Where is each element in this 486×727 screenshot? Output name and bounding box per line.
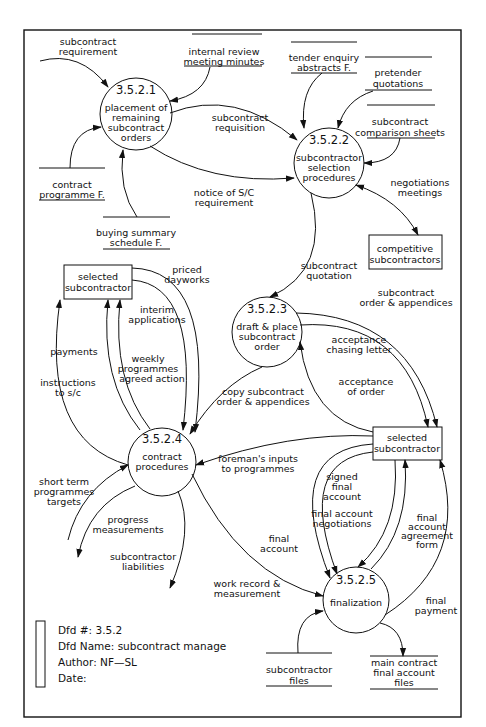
- store-subcontract-comparison-sheets[interactable]: subcontract comparison sheets: [355, 105, 445, 138]
- flow-label: dayworks: [164, 274, 209, 285]
- entity-label: subcontractor: [374, 443, 440, 454]
- flow-label: liabilities: [122, 561, 164, 572]
- dfd-number: Dfd #: 3.5.2: [58, 624, 122, 636]
- flow-label: of order: [347, 386, 385, 397]
- flow-label: account: [260, 543, 298, 554]
- store-pretender-quotations[interactable]: pretender quotations: [365, 57, 432, 90]
- flow-label: requisition: [215, 122, 265, 133]
- flow-label: meetings: [398, 187, 442, 198]
- store-label: subcontractor: [266, 664, 332, 675]
- flow-label: quotation: [306, 270, 352, 281]
- flow-arrows: [40, 58, 448, 656]
- store-label: pretender: [375, 67, 422, 78]
- store-subcontractor-files[interactable]: subcontractor files: [266, 653, 332, 686]
- store-label: subcontract: [372, 116, 429, 127]
- flow-label: measurement: [214, 588, 281, 599]
- dfd-canvas: 3.5.2.1 placement of remaining subcontra…: [0, 0, 486, 727]
- process-id: 3.5.2.5: [336, 573, 376, 587]
- process-3-5-2-1[interactable]: 3.5.2.1 placement of remaining subcontra…: [100, 78, 172, 150]
- process-label: finalization: [330, 597, 382, 608]
- process-3-5-2-2[interactable]: 3.5.2.2 subcontractor selection procedur…: [294, 128, 364, 198]
- process-3-5-2-4[interactable]: 3.5.2.4 contract procedures: [128, 428, 196, 496]
- process-id: 3.5.2.4: [142, 432, 182, 446]
- process-id: 3.5.2.1: [116, 83, 156, 97]
- flow-label: payment: [415, 605, 458, 616]
- store-contract-programme[interactable]: contract programme F.: [39, 168, 105, 200]
- flow-label: measurements: [92, 524, 163, 535]
- flow-label: chasing letter: [326, 344, 392, 355]
- flow-label: to s/c: [55, 387, 81, 398]
- store-label: schedule F.: [110, 237, 163, 248]
- process-label: order: [254, 341, 279, 352]
- flow-label: to programmes: [221, 463, 294, 474]
- process-id: 3.5.2.3: [247, 302, 287, 316]
- flow-label: targets: [47, 496, 81, 507]
- entity-label: subcontractor: [65, 282, 131, 293]
- store-tender-enquiry-abstracts[interactable]: tender enquiry abstracts F.: [289, 42, 360, 73]
- flow-label: requirement: [59, 46, 118, 57]
- dfd-date: Date:: [58, 672, 87, 684]
- entity-label: selected: [78, 271, 118, 282]
- flow-label: applications: [128, 314, 185, 325]
- store-label: quotations: [373, 78, 424, 89]
- store-label: programme F.: [39, 189, 105, 200]
- store-label: comparison sheets: [355, 127, 445, 138]
- flow-label: order & appendices: [216, 396, 309, 407]
- title-block: Dfd #: 3.5.2 Dfd Name: subcontract manag…: [36, 621, 226, 687]
- entity-competitive-subcontractors[interactable]: competitive subcontractors: [369, 235, 442, 269]
- store-label: files: [394, 677, 413, 688]
- process-3-5-2-3[interactable]: 3.5.2.3 draft & place subcontract order: [232, 297, 302, 367]
- dfd-name: Dfd Name: subcontract manage: [58, 640, 226, 652]
- flow-label: account: [323, 491, 361, 502]
- entity-selected-subcontractor-left[interactable]: selected subcontractor: [64, 265, 132, 299]
- flow-label: requirement: [195, 197, 254, 208]
- process-label: orders: [121, 132, 151, 143]
- entity-label: selected: [387, 432, 427, 443]
- title-block-bar: [36, 621, 45, 687]
- entity-label: competitive: [377, 243, 434, 254]
- process-label: procedures: [135, 461, 188, 472]
- store-main-contract-final-account-files[interactable]: main contract final account files: [370, 656, 438, 689]
- process-3-5-2-5[interactable]: 3.5.2.5 finalization: [323, 567, 389, 633]
- flow-label: negotiations: [312, 518, 371, 529]
- process-label: procedures: [302, 172, 355, 183]
- store-label: abstracts F.: [297, 62, 351, 73]
- flow-label: agreed action: [119, 373, 185, 384]
- store-buying-summary-schedule[interactable]: buying summary schedule F.: [96, 217, 177, 249]
- entity-selected-subcontractor-right[interactable]: selected subcontractor: [373, 427, 442, 460]
- flow-label: payments: [50, 346, 97, 357]
- process-id: 3.5.2.2: [309, 133, 349, 147]
- flow-label: form: [416, 539, 438, 550]
- store-label: meeting minutes: [184, 56, 265, 67]
- store-label: files: [289, 675, 308, 686]
- entity-label: subcontractors: [369, 254, 440, 265]
- store-internal-review-meeting-minutes[interactable]: internal review meeting minutes: [184, 34, 265, 67]
- dfd-author: Author: NF—SL: [58, 656, 137, 668]
- flow-label: order & appendices: [359, 297, 452, 308]
